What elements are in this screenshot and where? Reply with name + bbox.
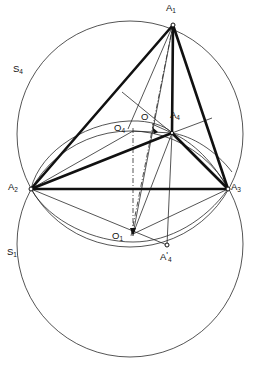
line-a3-o1-ray [133, 189, 228, 234]
thick-edges-group [31, 25, 228, 189]
label-vertex-a3: A3 [231, 182, 241, 192]
label-vertex-a4: A4 [170, 110, 180, 120]
label-center-o: O [141, 112, 148, 122]
figure-root: A1 A2 A3 A4 A'4 O O4 O1 S4 S1 [0, 0, 253, 367]
geometry-diagram-canvas [0, 0, 253, 367]
label-center-o4: O4 [114, 123, 125, 133]
line-a4-o1 [133, 133, 172, 234]
line-a1-o4 [128, 25, 173, 129]
thin-lines-group [31, 25, 228, 245]
label-vertex-a1: A1 [166, 3, 176, 13]
edge-a1-a2 [31, 25, 173, 189]
edge-a1-a3 [173, 25, 228, 189]
edge-a2-a4 [31, 133, 172, 189]
label-vertex-a4-prime: A'4 [160, 252, 172, 262]
point-a4 [170, 131, 173, 134]
arc-a4-right-edge [172, 133, 232, 172]
label-center-o1: O1 [112, 231, 123, 241]
point-a2 [29, 187, 33, 191]
point-a4-prime [165, 243, 169, 247]
arc-a2-a4 [31, 121, 172, 189]
arc-a2-a3-lower [31, 189, 228, 242]
point-markers-group [29, 23, 230, 247]
line-a2-a4prime [31, 189, 167, 245]
point-a3 [226, 187, 230, 191]
label-circle-s4: S4 [13, 64, 23, 74]
label-circle-s1: S1 [7, 247, 17, 257]
point-a1 [171, 23, 175, 27]
label-vertex-a2: A2 [8, 182, 18, 192]
